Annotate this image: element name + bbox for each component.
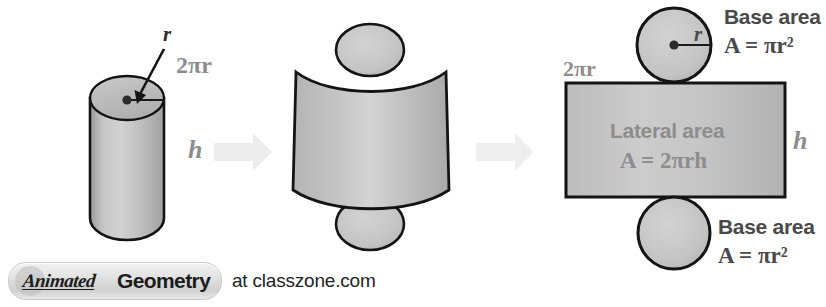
classzone-url-text: at classzone.com <box>232 270 376 292</box>
unroll-lateral-sheet <box>293 72 449 209</box>
cylinder-solid <box>90 49 164 240</box>
cylinder-center-dot <box>122 95 131 104</box>
cylinder-height-label: h <box>188 137 202 163</box>
net-radius-label: r <box>694 24 702 45</box>
cylinder-net-diagram: r 2πr h 2πr h r Base area A = πr² Latera… <box>0 0 826 307</box>
badge-geometry-word: Geometry <box>117 269 210 293</box>
cylinder-radius-label: r <box>163 24 171 45</box>
footer-bar: Animated Geometry at classzone.com <box>0 258 826 307</box>
net-height-label: h <box>793 128 807 154</box>
cylinder-circumference-label: 2πr <box>176 53 212 77</box>
lateral-area-title: Lateral area <box>610 120 724 141</box>
unroll-top-ellipse <box>336 24 404 76</box>
top-base-area-title: Base area <box>724 6 821 27</box>
badge-animated-word: Animated <box>22 270 96 292</box>
net-circumference-label: 2πr <box>563 58 596 80</box>
transform-arrow-2 <box>476 133 534 171</box>
transform-arrow-1 <box>214 133 272 171</box>
animated-geometry-badge[interactable]: Animated Geometry <box>8 262 222 300</box>
top-base-area-formula: A = πr² <box>724 34 794 57</box>
lateral-area-formula: A = 2πrh <box>620 149 707 172</box>
unrolling-cylinder <box>293 24 449 250</box>
bottom-base-area-title: Base area <box>718 216 815 237</box>
net-center-dot <box>669 40 678 49</box>
